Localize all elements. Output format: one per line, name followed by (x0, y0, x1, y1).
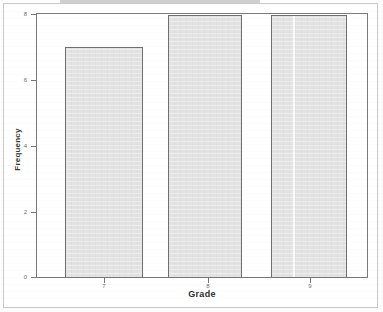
x-axis-title: Grade (36, 289, 368, 299)
y-tick-8 (31, 14, 37, 15)
bar-grade-7 (65, 47, 143, 278)
bar-chart: 8 6 4 2 0 7 8 9 Frequency Grade (0, 0, 383, 312)
y-tick-6 (31, 80, 37, 81)
y-tick-label-0: 0 (5, 274, 27, 280)
y-tick-label-2: 2 (5, 209, 27, 215)
bars-layer (36, 13, 368, 278)
y-tick-0 (31, 277, 37, 278)
y-tick-2 (31, 212, 37, 213)
y-axis-title: Frequency (13, 105, 22, 195)
y-tick-4 (31, 146, 37, 147)
y-tick-label-8: 8 (5, 11, 27, 17)
bar-texture (272, 16, 346, 277)
bar-grade-9 (271, 15, 347, 278)
bar-texture (66, 48, 142, 277)
x-axis-line (36, 277, 368, 278)
bar-texture (169, 16, 241, 277)
scanned-page: 8 6 4 2 0 7 8 9 Frequency Grade (0, 0, 383, 312)
bar-grade-8 (168, 15, 242, 278)
y-tick-label-6: 6 (5, 77, 27, 83)
